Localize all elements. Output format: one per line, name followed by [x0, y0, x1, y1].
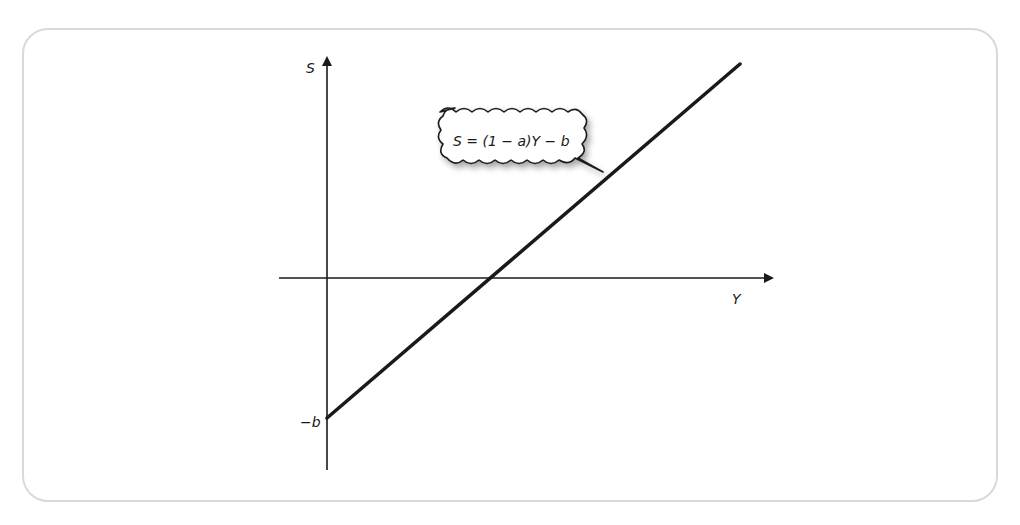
x-axis-label: Y: [732, 291, 742, 307]
intercept-label: −b: [300, 414, 321, 430]
y-axis-label: S: [306, 60, 315, 76]
equation-label: S = (1 − a)Y − b: [453, 133, 570, 149]
saving-function-diagram: S Y −b S = (1 − a)Y − b: [0, 0, 1020, 525]
